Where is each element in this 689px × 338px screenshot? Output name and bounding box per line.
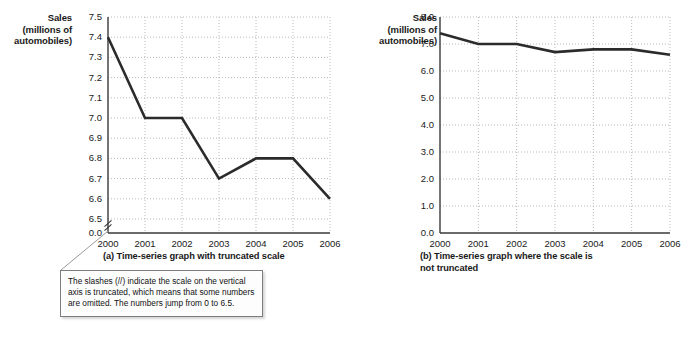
chart-b-caption: (b) Time-series graph where the scale is…	[420, 250, 593, 274]
chart-b-caption-line-1: (b) Time-series graph where the scale is	[420, 250, 593, 262]
chart-b-plot	[355, 0, 689, 260]
callout-leader-line	[61, 231, 108, 270]
figure-a-truncated-chart: Sales (millions of automobiles) 7.57.47.…	[0, 0, 360, 338]
chart-b-caption-line-2: not truncated	[420, 262, 593, 274]
figure-b-untruncated-chart: Sales (millions of automobiles) 8.07.06.…	[355, 0, 689, 338]
truncation-callout-box: The slashes (//) indicate the scale on t…	[60, 270, 263, 317]
